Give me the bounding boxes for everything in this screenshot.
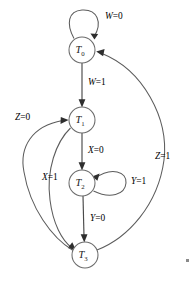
edge-t1-to-t2: [79, 133, 86, 171]
edge-label-t2-t3: Y=0: [90, 214, 105, 223]
state-node-t1[interactable]: T1: [69, 107, 95, 133]
edge-label-t3-t1: Z=0: [15, 113, 30, 122]
edge-label-t0-t1-val: 1: [101, 77, 106, 87]
arrowhead-t3-t0: [96, 49, 104, 56]
state-node-t3[interactable]: T3: [72, 242, 98, 268]
edge-t0-self-loop: [69, 10, 98, 40]
edge-t3-to-t0: [96, 49, 164, 250]
state-label-t3-sub: 3: [84, 254, 88, 261]
arrowhead-t2-t3: [81, 234, 88, 242]
state-label-t2-sub: 2: [81, 182, 85, 189]
state-node-t2[interactable]: T2: [69, 170, 95, 196]
edge-label-t1-t3: X=1: [42, 173, 58, 182]
edge-label-t0-t1: W=1: [88, 78, 106, 87]
edge-t2-to-t3: [81, 196, 88, 243]
edge-label-t0-self: W=0: [105, 12, 123, 21]
edge-label-t0-t1-var: W: [88, 77, 96, 87]
edge-label-t2-t3-var: Y: [90, 213, 95, 223]
edge-t3-to-t1: [23, 117, 73, 250]
edge-label-t1-t3-val: 1: [53, 172, 58, 182]
state-label-t0-sub: 0: [81, 49, 85, 56]
edge-label-t3-t1-val: 0: [26, 112, 31, 122]
edge-label-t2-self: Y=1: [131, 177, 146, 186]
edge-label-t1-t2: X=0: [88, 146, 104, 155]
arrowhead-t1-t2: [79, 162, 86, 170]
edge-label-t2-self-val: 1: [142, 176, 147, 186]
edge-label-t1-t3-var: X: [42, 172, 48, 182]
edge-label-t3-t0: Z=1: [155, 152, 170, 161]
arrowhead-t0-self: [90, 34, 98, 40]
state-node-t0[interactable]: T0: [69, 37, 95, 63]
state-diagram-svg: T0 T1 T2 T3: [0, 0, 192, 284]
state-diagram-canvas: T0 T1 T2 T3 W=0 W=1 X=0: [0, 0, 192, 284]
corner-mark: [186, 259, 189, 262]
state-label-t1-sub: 1: [81, 119, 84, 126]
arrowhead-t0-t1: [79, 99, 86, 107]
arrowhead-t3-t1: [61, 117, 69, 124]
edge-label-t0-self-var: W: [105, 11, 113, 21]
edge-label-t1-t2-var: X: [88, 145, 94, 155]
edge-t0-to-t1: [79, 63, 86, 108]
edge-t2-self-loop: [92, 172, 126, 196]
edge-label-t0-self-val: 0: [118, 11, 123, 21]
edge-label-t3-t0-val: 1: [166, 151, 171, 161]
edge-label-t2-t3-val: 0: [101, 213, 106, 223]
edge-label-t3-t1-var: Z: [15, 112, 20, 122]
edge-label-t1-t2-val: 0: [99, 145, 104, 155]
edge-label-t2-self-var: Y: [131, 176, 136, 186]
edge-label-t3-t0-var: Z: [155, 151, 160, 161]
